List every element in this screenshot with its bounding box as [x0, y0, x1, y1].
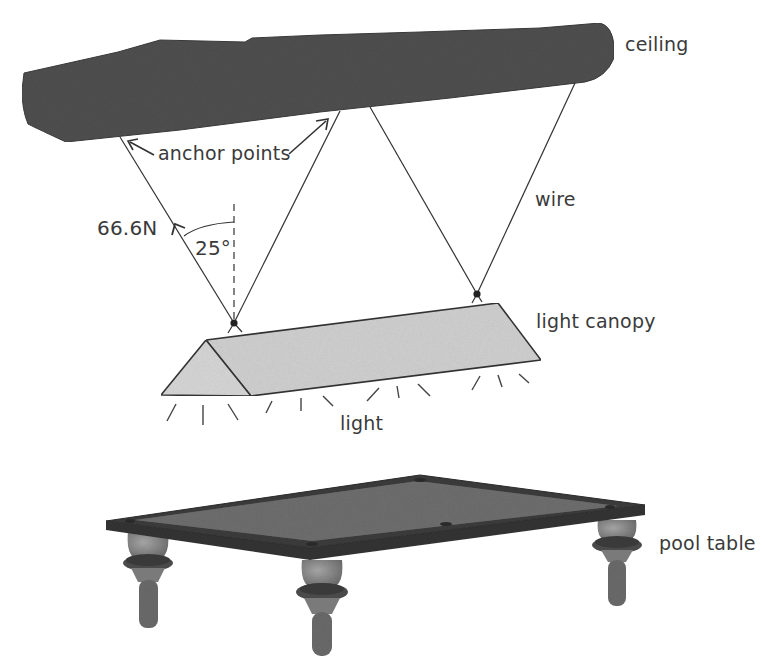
- label-angle: 25°: [195, 236, 231, 260]
- label-ceiling: ceiling: [625, 33, 688, 55]
- junction-left: [230, 319, 237, 326]
- pool-table: [106, 475, 645, 656]
- wire-right-inner: [370, 107, 477, 294]
- label-anchor-points: anchor points: [158, 142, 291, 164]
- angle-arc: [184, 222, 234, 236]
- ceiling-beam: [22, 23, 614, 142]
- table-leg-front: [296, 560, 348, 656]
- table-leg-right: [592, 520, 642, 606]
- table-leg-left: [123, 532, 173, 628]
- light-canopy: [161, 303, 541, 396]
- label-light-canopy: light canopy: [536, 310, 656, 332]
- label-light: light: [340, 412, 383, 434]
- junction-right: [473, 290, 480, 297]
- diagram-canvas: ceiling anchor points wire 66.6N 25° lig…: [0, 0, 765, 670]
- label-pool-table: pool table: [659, 532, 756, 554]
- label-wire: wire: [535, 188, 576, 210]
- label-tension-force: 66.6N: [97, 216, 158, 240]
